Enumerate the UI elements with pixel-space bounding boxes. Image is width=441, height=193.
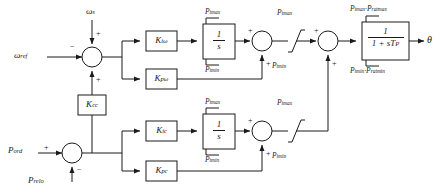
sum2-sign-top: + <box>248 27 253 35</box>
limit-label-lag-min: Pimin·Pratmin <box>350 67 385 75</box>
control-block-diagram: ωs + ωref − + Kiω Kpω 1 s Pimax Pimin + … <box>0 0 441 193</box>
lag-block-denominator: 1 + sTP <box>362 39 409 48</box>
sum5-sign-bottom: − <box>77 166 82 174</box>
sum3-sign-bottom: + <box>332 60 337 68</box>
limit-label-lower-int-min: Pimin <box>205 156 219 164</box>
integrator-block-lower: 1 s <box>203 120 235 142</box>
input-label-omega-ref: ωref <box>14 51 27 60</box>
integrator-block-upper: 1 s <box>203 30 235 52</box>
input-label-omega: ωs <box>86 7 95 16</box>
limit-label-lower-lim-min: Pimin <box>272 152 286 160</box>
sum1-sign-top: + <box>96 30 101 38</box>
lag-block: 1 1 + sTP <box>362 27 409 49</box>
sum1-sign-left: − <box>70 43 75 51</box>
sum4-sign-top: + <box>248 117 253 125</box>
limit-label-upper-int-min: Pimin <box>205 66 219 74</box>
gain-block-k-pw: Kpω <box>146 74 177 83</box>
sum2-sign-bottom: + <box>266 60 271 68</box>
output-label-theta: θ <box>427 35 432 45</box>
gain-block-k-pc: Kpc <box>146 166 177 175</box>
limit-label-upper-lim-min: Pimin <box>272 62 286 70</box>
limit-label-upper-lim-max: Pimax <box>277 9 292 17</box>
sum4-sign-bottom: + <box>266 150 271 158</box>
input-label-p-ord: Pord <box>8 146 22 155</box>
sum3-sign-top: + <box>314 27 319 35</box>
limit-label-lower-int-max: Pimax <box>205 98 220 106</box>
limit-label-lag-max: Pimax·Pratmax <box>350 5 387 13</box>
sum5-sign-left: + <box>44 144 49 152</box>
gain-block-k-iw: Kiω <box>146 36 177 45</box>
gain-block-k-ic: Kic <box>146 126 177 135</box>
limit-label-upper-int-max: Pimax <box>205 8 220 16</box>
limit-label-lower-lim-max: Pimax <box>277 99 292 107</box>
input-label-p-relo: Prelo <box>28 176 44 185</box>
gain-block-k-cc: Kcc <box>78 100 106 109</box>
sum1-sign-bottom: + <box>96 76 101 84</box>
